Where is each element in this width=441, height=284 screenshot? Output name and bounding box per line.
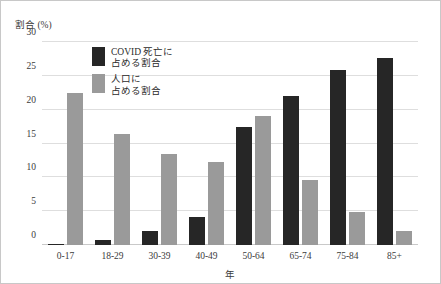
x-axis-tick-label: 40-49 [183,251,230,261]
bar [396,231,412,245]
y-axis-tick-label: 5 [31,197,36,207]
bar [95,240,111,245]
x-axis-tick-label: 18-29 [89,251,136,261]
bar [161,154,177,245]
x-axis-tick-label: 0-17 [42,251,89,261]
bar [349,212,365,245]
x-axis-tick-label: 50-64 [230,251,277,261]
bar [330,70,346,245]
bar-group [42,42,89,245]
x-axis-tick-label: 65-74 [277,251,324,261]
x-axis-tick-label: 85+ [371,251,418,261]
bar [236,127,252,245]
y-axis-tick-label: 0 [31,231,36,241]
legend-swatch [92,74,105,93]
bar [142,231,158,245]
x-axis-ticks: 0-1718-2930-3940-4950-6465-7475-8485+ [42,251,418,261]
bar [114,134,130,245]
bar [283,96,299,245]
y-axis-tick-label: 25 [27,62,37,72]
legend-item: COVID 死亡に 占める割合 [92,47,173,69]
bar [302,180,318,245]
x-axis-title: 年 [42,267,418,281]
legend-label: COVID 死亡に 占める割合 [111,47,173,69]
legend-item: 人口に 占める割合 [92,74,173,96]
bar-chart-figure: 割合 (%) 051015202530 0-1718-2930-3940-495… [0,0,441,284]
legend-swatch [92,47,105,66]
bar-group [183,42,230,245]
bar [255,116,271,245]
bar-group [371,42,418,245]
bar [208,162,224,245]
y-axis-tick-label: 20 [27,96,37,106]
bar-group [324,42,371,245]
x-axis-tick-label: 75-84 [324,251,371,261]
bar-group [277,42,324,245]
bar [189,217,205,245]
y-axis-tick-label: 30 [27,28,37,38]
legend-label: 人口に 占める割合 [111,74,161,96]
bar [48,244,64,245]
bar [377,58,393,245]
bar [67,93,83,245]
y-axis-tick-label: 10 [27,164,37,174]
chart-legend: COVID 死亡に 占める割合人口に 占める割合 [92,47,173,102]
y-axis-tick-label: 15 [27,130,37,140]
bar-group [230,42,277,245]
x-axis-tick-label: 30-39 [136,251,183,261]
